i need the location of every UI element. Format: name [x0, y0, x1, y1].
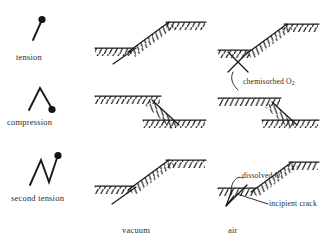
stage-label-second-tension: second tension — [11, 194, 64, 203]
column-label-air: air — [228, 226, 238, 235]
annotation-chemisorbed-oxygen-text: chemisorbed O — [243, 77, 292, 86]
figure-canvas: tension compression second tension vacuu… — [0, 0, 323, 247]
annotation-dissolved-oxygen: dissolved O — [242, 172, 280, 180]
slip-step-air-tension — [218, 24, 319, 72]
stage-label-tension: tension — [16, 53, 42, 62]
stage-label-compression: compression — [7, 118, 52, 127]
load-second-tension-icon — [30, 152, 62, 185]
slip-step-air-compression — [218, 98, 319, 129]
slip-step-vacuum-compression — [95, 96, 206, 129]
annotation-chemisorbed-oxygen: chemisorbed O2 — [243, 78, 295, 87]
slip-step-vacuum-second-tension — [95, 160, 206, 204]
load-compression-icon — [29, 88, 56, 113]
load-tension-icon — [33, 16, 46, 40]
slip-step-vacuum-tension — [95, 22, 206, 64]
annotation-chemisorbed-oxygen-subscript: 2 — [292, 80, 295, 86]
chemisorbed-oxygen-leader — [232, 72, 238, 90]
column-label-vacuum: vacuum — [122, 226, 150, 235]
annotation-incipient-crack: incipient crack — [269, 200, 317, 208]
